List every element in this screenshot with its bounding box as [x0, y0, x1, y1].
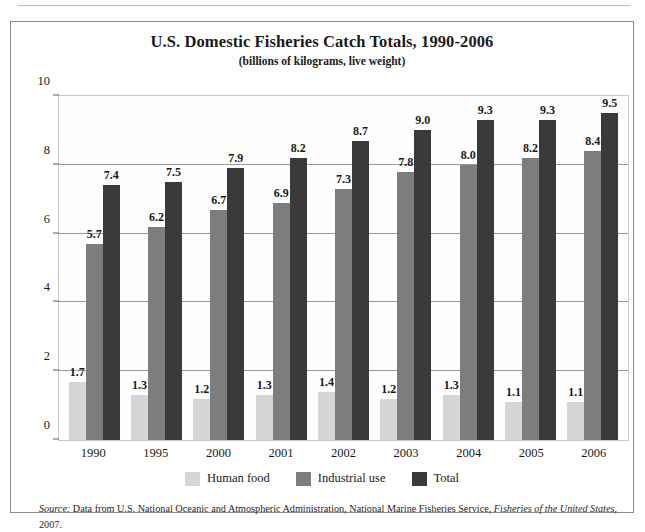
bar: 7.4	[103, 185, 120, 440]
y-axis-tick-label: 8	[44, 142, 50, 157]
y-axis-tick-label: 2	[44, 349, 50, 364]
bar-value-label: 1.3	[444, 378, 459, 393]
bar-value-label: 7.4	[104, 168, 119, 183]
bar-value-label: 9.3	[540, 103, 555, 118]
source-text-part1: Data from U.S. National Oceanic and Atmo…	[70, 503, 494, 514]
bar: 6.2	[148, 227, 165, 440]
y-axis-tick-label: 4	[44, 280, 50, 295]
bar: 1.3	[131, 395, 148, 440]
bar-value-label: 7.3	[336, 172, 351, 187]
bar-value-label: 7.8	[398, 155, 413, 170]
bar: 1.3	[443, 395, 460, 440]
x-axis-tick-label: 2003	[375, 446, 438, 466]
legend-swatch	[185, 472, 200, 486]
legend-item: Human food	[185, 471, 270, 486]
chart-title: U.S. Domestic Fisheries Catch Totals, 19…	[11, 33, 633, 52]
bar-value-label: 8.0	[461, 148, 476, 163]
bar: 1.4	[318, 392, 335, 440]
y-axis-tick-label: 10	[38, 74, 51, 89]
bar-value-label: 5.7	[87, 227, 102, 242]
bar-value-label: 1.7	[70, 365, 85, 380]
legend-item: Total	[412, 471, 460, 486]
bar-group: 1.36.98.2	[256, 96, 307, 440]
bar: 6.7	[210, 210, 227, 440]
bar-value-label: 1.2	[194, 382, 209, 397]
source-note: Source: Data from U.S. National Oceanic …	[39, 501, 635, 532]
bar: 1.1	[567, 402, 584, 440]
source-publication-title: Fisheries of the United States	[494, 503, 615, 514]
bar-value-label: 6.2	[149, 210, 164, 225]
bar-value-label: 1.1	[568, 385, 583, 400]
x-axis-tick-label: 1990	[62, 446, 125, 466]
x-axis-tick-label: 2005	[500, 446, 563, 466]
plot-area: 0246810 1.75.77.41.36.27.51.26.77.91.36.…	[58, 95, 629, 441]
bar-groups: 1.75.77.41.36.27.51.26.77.91.36.98.21.47…	[59, 96, 628, 440]
title-block: U.S. Domestic Fisheries Catch Totals, 19…	[11, 33, 633, 68]
x-axis-tick-label: 2000	[187, 446, 250, 466]
x-axis-tick-label: 1995	[125, 446, 188, 466]
bar: 7.8	[397, 172, 414, 440]
x-axis-tick-label: 2002	[312, 446, 375, 466]
bar-value-label: 9.0	[415, 113, 430, 128]
bar: 8.2	[522, 158, 539, 440]
plot-wrapper: 0246810 1.75.77.41.36.27.51.26.77.91.36.…	[58, 95, 629, 441]
bar-value-label: 1.4	[319, 375, 334, 390]
bar-group: 1.47.38.7	[318, 96, 369, 440]
bar: 8.4	[584, 151, 601, 440]
bar-value-label: 8.4	[585, 134, 600, 149]
bar: 8.7	[352, 141, 369, 440]
bar: 5.7	[86, 244, 103, 440]
source-lead-label: Source:	[39, 503, 70, 514]
bar-value-label: 8.2	[523, 141, 538, 156]
y-axis-tick-label: 6	[44, 211, 50, 226]
bar-value-label: 7.9	[228, 151, 243, 166]
legend-label: Human food	[207, 471, 270, 486]
x-axis-tick-label: 2001	[250, 446, 313, 466]
bar-value-label: 1.3	[132, 378, 147, 393]
legend-swatch	[296, 472, 311, 486]
bar: 8.2	[290, 158, 307, 440]
bar: 7.3	[335, 189, 352, 440]
bar-group: 1.26.77.9	[193, 96, 244, 440]
bar-value-label: 6.9	[274, 186, 289, 201]
bar-value-label: 8.2	[291, 141, 306, 156]
x-axis-tick-label: 2006	[563, 446, 626, 466]
bar-group: 1.36.27.5	[131, 96, 182, 440]
bar-value-label: 9.5	[602, 96, 617, 111]
bar-value-label: 7.5	[166, 165, 181, 180]
bar: 1.3	[256, 395, 273, 440]
bar: 8.0	[460, 165, 477, 440]
bar-group: 1.18.49.5	[567, 96, 618, 440]
y-axis-tick-label: 0	[44, 418, 50, 433]
x-axis-tick-labels: 199019952000200120022003200420052006	[58, 446, 629, 466]
figure-container: U.S. Domestic Fisheries Catch Totals, 19…	[10, 21, 634, 513]
bar-value-label: 1.2	[381, 382, 396, 397]
bar: 1.2	[380, 399, 397, 440]
chart-subtitle: (billions of kilograms, live weight)	[11, 55, 633, 68]
chart-legend: Human foodIndustrial useTotal	[11, 471, 633, 486]
bar-value-label: 8.7	[353, 124, 368, 139]
bar: 7.9	[227, 168, 244, 440]
legend-swatch	[412, 472, 427, 486]
bar: 7.5	[165, 182, 182, 440]
bar: 1.2	[193, 399, 210, 440]
legend-label: Total	[434, 471, 460, 486]
bar-group: 1.27.89.0	[380, 96, 431, 440]
bar: 9.5	[601, 113, 618, 440]
bar: 1.1	[505, 402, 522, 440]
bar: 9.0	[414, 130, 431, 440]
bar: 6.9	[273, 203, 290, 440]
x-axis-tick-label: 2004	[437, 446, 500, 466]
bar: 9.3	[477, 120, 494, 440]
legend-item: Industrial use	[296, 471, 386, 486]
bar-value-label: 9.3	[478, 103, 493, 118]
bar-group: 1.75.77.4	[69, 96, 120, 440]
bar-group: 1.38.09.3	[443, 96, 494, 440]
page-top-rule	[18, 5, 630, 6]
bar: 1.7	[69, 382, 86, 440]
bar: 9.3	[539, 120, 556, 440]
bar-group: 1.18.29.3	[505, 96, 556, 440]
bar-value-label: 1.3	[257, 378, 272, 393]
bar-value-label: 1.1	[506, 385, 521, 400]
legend-label: Industrial use	[318, 471, 386, 486]
